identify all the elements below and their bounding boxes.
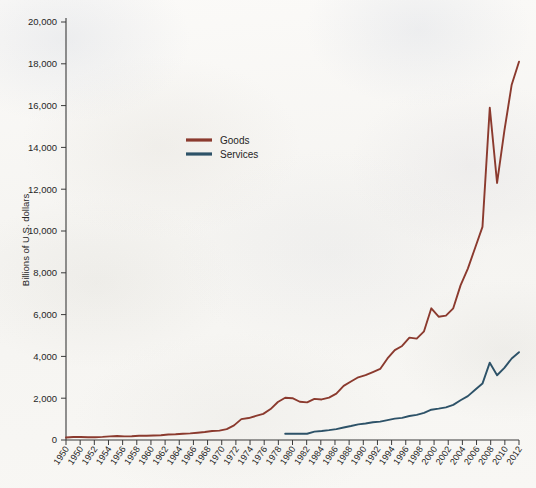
legend-label-services: Services [220,149,258,160]
y-axis: 02,0004,0006,0008,00010,00012,00014,0001… [28,16,66,445]
y-axis-tick-label: 6,000 [33,309,57,320]
y-axis-tick-label: 14,000 [28,142,57,153]
y-axis-tick-label: 2,000 [33,393,57,404]
y-axis-tick-label: 8,000 [33,267,57,278]
legend-label-goods: Goods [220,135,249,146]
chart-canvas: Billions of U.S. dollars 02,0004,0006,00… [0,0,536,488]
y-axis-tick-label: 4,000 [33,351,57,362]
x-axis-tick-label: 2012 [504,444,524,466]
chart-legend: GoodsServices [186,135,258,160]
y-axis-title: Billions of U.S. dollars [20,194,31,287]
y-axis-tick-label: 12,000 [28,184,57,195]
y-axis-tick-label: 0 [52,434,57,445]
y-axis-tick-label: 16,000 [28,100,57,111]
y-axis-tick-label: 10,000 [28,225,57,236]
y-axis-title-group: Billions of U.S. dollars [20,194,31,287]
y-axis-tick-label: 20,000 [28,16,57,27]
series-line-goods [66,62,519,438]
y-axis-tick-label: 18,000 [28,58,57,69]
line-chart-figure: Billions of U.S. dollars 02,0004,0006,00… [0,0,536,488]
series-line-services [285,352,519,434]
series-layer [66,62,519,438]
x-axis: 1950195019521954195619581960196219641966… [51,440,524,467]
